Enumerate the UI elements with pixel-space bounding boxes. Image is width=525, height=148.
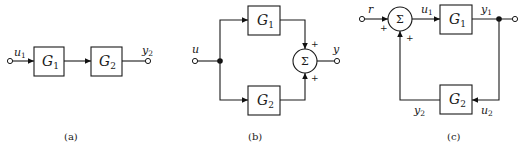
output-terminal: [512, 16, 517, 21]
sigma-icon: Σ: [301, 55, 309, 68]
arrow-head-icon: [434, 16, 440, 22]
label-y1: y1: [480, 3, 492, 17]
label-r: r: [368, 3, 374, 16]
diagram-a-series: u1 G1 G2 y2 (a): [7, 44, 153, 142]
diagram-b-parallel: u G1 + G2 + Σ y (b): [192, 6, 340, 142]
diagram-c-feedback: r + Σ u1 G1 y1 u2 G2 + y2 (c): [359, 3, 517, 142]
input-terminal-u: [192, 58, 197, 63]
output-terminal-y2: [145, 58, 150, 63]
sigma-icon: Σ: [396, 13, 404, 26]
label-u: u: [192, 43, 199, 56]
label-y: y: [332, 43, 340, 56]
sign-plus-bottom: +: [406, 33, 414, 43]
arrow-head-icon: [472, 97, 478, 103]
arrow-head-icon: [302, 73, 308, 79]
caption-a: (a): [64, 131, 78, 142]
arrow-head-icon: [242, 97, 248, 103]
arrow-head-icon: [382, 16, 388, 22]
label-u2: u2: [481, 104, 493, 118]
arrow-head-icon: [28, 58, 34, 64]
arrow-head-icon: [85, 58, 91, 64]
arrow-head-icon: [242, 17, 248, 23]
label-u1: u1: [421, 3, 433, 17]
arrow-head-icon: [397, 31, 403, 37]
label-u1: u1: [14, 46, 26, 60]
caption-c: (c): [447, 131, 461, 142]
sign-plus-bottom: +: [311, 73, 319, 83]
block-diagrams: u1 G1 G2 y2 (a) u G1 + G2: [0, 0, 525, 148]
label-y2: y2: [141, 44, 153, 58]
sign-plus-top: +: [311, 39, 319, 49]
input-terminal-u1: [7, 58, 12, 63]
arrow-head-icon: [302, 43, 308, 49]
output-terminal-y: [334, 58, 339, 63]
caption-b: (b): [248, 131, 262, 142]
sign-plus-left: +: [380, 23, 388, 33]
input-terminal-r: [359, 16, 364, 21]
label-y2: y2: [413, 104, 425, 118]
